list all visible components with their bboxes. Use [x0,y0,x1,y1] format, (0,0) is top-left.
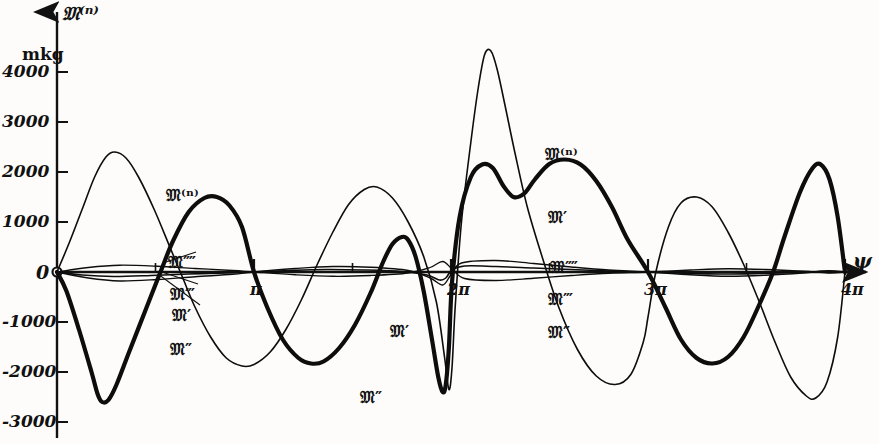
y-tick-label: 2000 [2,161,49,181]
y-tick-label: 3000 [2,111,49,131]
curve-label: 𝔐⁽ⁿ⁾ [545,145,578,164]
curve-label: 𝔐⁽ⁿ⁾ [166,186,199,205]
y-tick-label: 4000 [2,61,49,81]
curve-label: 𝔐′ [172,306,191,325]
chart-canvas [0,0,879,444]
curve-label: 𝔐″ [548,323,570,342]
x-tick-label: π [250,280,262,299]
curve-label: 𝔐⁗ [550,258,578,277]
chart-figure: 40003000200010000-1000-2000-3000 π2π3π4π… [0,0,879,444]
curve-label: 𝔐″ [170,340,192,359]
curve-label: 𝔐″ [360,388,382,407]
curve-label: 𝔐‴ [170,285,195,304]
y-tick-label: -3000 [2,411,56,431]
curve-label: 𝔐⁗ [168,253,196,272]
y-tick-label: -1000 [2,311,56,331]
x-tick-label: 3π [644,280,667,299]
x-tick-label: 2π [447,280,470,299]
curve-label: 𝔐‴ [548,290,573,309]
curve-label: 𝔐′ [548,208,567,227]
y-tick-label: 0 [36,261,49,283]
curve-label: 𝔐′ [390,322,409,341]
y-axis-unit-label: mkg [22,44,64,64]
y-axis-title: 𝔐⁽ⁿ⁾ [62,2,99,25]
x-axis-title: ψ [853,249,872,273]
x-tick-label: 4π [841,280,864,299]
y-tick-label: 1000 [2,211,49,231]
y-tick-label: -2000 [2,361,56,381]
